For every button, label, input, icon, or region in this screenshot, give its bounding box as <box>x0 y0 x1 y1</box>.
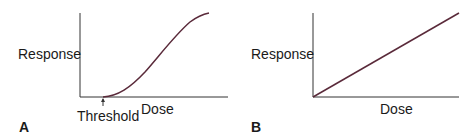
panel-b-label: B <box>251 119 261 135</box>
panel-a-sigmoid-curve <box>103 13 209 97</box>
panel-b-linear-line <box>313 13 459 97</box>
threshold-arrow-icon <box>101 98 105 106</box>
dose-response-figure: Response Threshold Dose A Response Dose … <box>0 0 473 140</box>
panel-a-ylabel: Response <box>18 46 81 62</box>
panel-a-threshold-label: Threshold <box>77 108 139 124</box>
panel-a-label: A <box>19 119 29 135</box>
panel-a: Response Threshold Dose A <box>18 13 228 135</box>
panel-b-xlabel: Dose <box>380 101 413 117</box>
panel-b: Response Dose B <box>251 13 459 135</box>
panel-b-ylabel: Response <box>251 46 314 62</box>
panel-a-xlabel: Dose <box>141 101 174 117</box>
